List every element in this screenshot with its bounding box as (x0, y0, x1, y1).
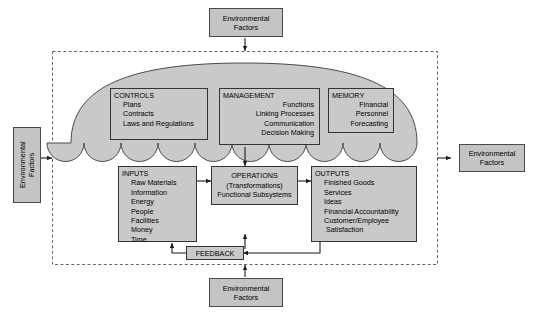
outputs-header: OUTPUTS (315, 169, 413, 178)
operations-line2: (Transformations) (226, 181, 282, 190)
outputs-item-3: Financial Accountability (315, 207, 413, 216)
outputs-item-5: Satisfaction (315, 225, 413, 234)
memory-item-1: Personnel (332, 109, 389, 118)
memory-box[interactable]: MEMORY Financial Personnel Forecasting (328, 88, 394, 133)
management-item-1: Linking Processes (223, 109, 315, 118)
memory-item-2: Forecasting (332, 119, 389, 128)
memory-item-0: Financial (332, 100, 389, 109)
controls-box[interactable]: CONTROLS Plans Contracts Laws and Regula… (110, 88, 208, 140)
operations-line3: Functional Subsystems (217, 190, 291, 199)
env-factors-left-line1: Environmental (18, 142, 27, 189)
management-header: MANAGEMENT (223, 91, 315, 100)
inputs-item-1: Information (122, 188, 193, 197)
feedback-box[interactable]: FEEDBACK (186, 246, 244, 260)
env-factors-bottom-line2: Factors (234, 293, 258, 302)
inputs-box[interactable]: INPUTS Raw Materials Information Energy … (118, 166, 197, 242)
env-factors-right-line1: Environmental (469, 149, 516, 158)
operations-box[interactable]: OPERATIONS (Transformations) Functional … (211, 166, 298, 205)
outputs-item-2: Ideas (315, 197, 413, 206)
controls-item-1: Contracts (114, 109, 203, 118)
env-factors-bottom[interactable]: Environmental Factors (209, 278, 283, 307)
env-factors-top-line2: Factors (234, 23, 258, 32)
controls-item-0: Plans (114, 100, 203, 109)
management-item-2: Communication (223, 119, 315, 128)
env-factors-left[interactable]: Environmental Factors (13, 127, 41, 203)
env-factors-right-line2: Factors (480, 158, 504, 167)
diagram-canvas: Environmental Factors Environmental Fact… (0, 0, 538, 319)
operations-header: OPERATIONS (231, 171, 278, 180)
inputs-item-6: Time (122, 235, 193, 244)
feedback-label: FEEDBACK (196, 249, 235, 258)
outputs-item-4: Customer/Employee (315, 216, 413, 225)
inputs-header: INPUTS (122, 169, 193, 178)
inputs-item-3: People (122, 207, 193, 216)
connector-feedback-to-inputs (172, 243, 186, 253)
management-box[interactable]: MANAGEMENT Functions Linking Processes C… (219, 88, 320, 145)
inputs-item-0: Raw Materials (122, 178, 193, 187)
diagram-graphics-layer (0, 0, 538, 319)
management-item-3: Decision Making (223, 128, 315, 137)
connector-outputs-to-feedback (243, 241, 320, 253)
env-factors-bottom-line1: Environmental (223, 284, 270, 293)
inputs-item-4: Facilities (122, 216, 193, 225)
env-factors-right[interactable]: Environmental Factors (459, 144, 525, 172)
memory-header: MEMORY (332, 91, 389, 100)
management-item-0: Functions (223, 100, 315, 109)
inputs-item-2: Energy (122, 197, 193, 206)
env-factors-left-line2: Factors (27, 153, 36, 177)
controls-item-2: Laws and Regulations (114, 119, 203, 128)
outputs-item-1: Services (315, 188, 413, 197)
env-factors-top[interactable]: Environmental Factors (209, 8, 283, 37)
controls-header: CONTROLS (114, 91, 203, 100)
outputs-item-0: Finished Goods (315, 178, 413, 187)
outputs-box[interactable]: OUTPUTS Finished Goods Services Ideas Fi… (311, 166, 417, 242)
inputs-item-5: Money (122, 225, 193, 234)
env-factors-top-line1: Environmental (223, 14, 270, 23)
